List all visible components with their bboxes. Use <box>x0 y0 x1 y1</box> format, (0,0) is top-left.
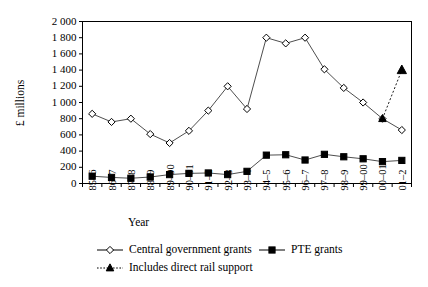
y-tick-label: 800 <box>60 112 77 124</box>
data-point-square <box>263 152 269 158</box>
data-point-diamond <box>166 139 173 146</box>
data-point-diamond <box>106 246 113 253</box>
data-point-diamond <box>263 34 270 41</box>
series-central-government-grants-line <box>92 38 402 143</box>
x-tick-label: 97–8 <box>319 170 330 191</box>
legend-marker-2 <box>106 264 114 271</box>
legend-marker-0 <box>106 246 113 253</box>
legend-label-1: PTE grants <box>291 243 343 256</box>
data-point-square <box>108 174 114 180</box>
y-tick-label: 1 000 <box>52 96 77 108</box>
series-direct-rail-support-markers <box>379 65 407 122</box>
data-point-diamond <box>282 40 289 47</box>
data-point-diamond <box>301 34 308 41</box>
data-point-diamond <box>108 118 115 125</box>
x-tick-label: 94–5 <box>261 170 272 191</box>
data-point-diamond <box>89 110 96 117</box>
data-point-square <box>269 247 275 253</box>
x-tick-label: 01–2 <box>397 170 408 191</box>
y-tick-label: 0 <box>71 177 77 189</box>
legend-marker-1 <box>269 247 275 253</box>
y-axis: 02004006008001 0001 2001 4001 6001 8002 … <box>52 15 83 189</box>
y-tick-label: 2 000 <box>52 15 77 27</box>
x-axis-title: Year <box>128 216 149 228</box>
data-point-triangle <box>106 264 114 271</box>
chart-figure: 02004006008001 0001 2001 4001 6001 8002 … <box>0 0 428 287</box>
x-tick-label: 98–9 <box>339 170 350 191</box>
data-point-square <box>283 152 289 158</box>
x-tick-label: 00–01 <box>377 164 388 190</box>
data-point-diamond <box>398 126 405 133</box>
data-point-square <box>186 170 192 176</box>
chart-legend: Central government grantsPTE grantsInclu… <box>97 243 343 274</box>
data-point-square <box>225 171 231 177</box>
y-tick-label: 1 800 <box>52 31 77 43</box>
data-point-square <box>321 151 327 157</box>
y-tick-label: 600 <box>60 128 77 140</box>
x-tick-label: 95–6 <box>281 170 292 191</box>
y-tick-label: 400 <box>60 144 77 156</box>
data-point-square <box>166 171 172 177</box>
y-axis-title: £ millions <box>14 79 26 126</box>
legend-label-2: Includes direct rail support <box>129 261 253 274</box>
data-point-square <box>399 157 405 163</box>
chart-svg: 02004006008001 0001 2001 4001 6001 8002 … <box>0 0 428 287</box>
x-tick-label: 96–7 <box>300 170 311 191</box>
data-point-square <box>147 174 153 180</box>
y-tick-label: 1 600 <box>52 47 77 59</box>
data-point-square <box>302 157 308 163</box>
data-point-square <box>128 175 134 181</box>
data-point-square <box>244 168 250 174</box>
series-central-government-grants-markers <box>89 34 406 147</box>
data-point-triangle <box>397 65 406 74</box>
data-point-square <box>89 173 95 179</box>
x-tick-label: 90–91 <box>184 164 195 190</box>
series-direct-rail-support-line <box>382 70 401 119</box>
data-point-square <box>341 154 347 160</box>
x-tick-label: 99–00 <box>358 164 369 190</box>
y-tick-label: 200 <box>60 160 77 172</box>
data-point-square <box>379 159 385 165</box>
legend-label-0: Central government grants <box>129 243 252 256</box>
data-point-square <box>360 156 366 162</box>
y-tick-label: 1 200 <box>52 79 77 91</box>
y-tick-label: 1 400 <box>52 63 77 75</box>
data-point-square <box>205 170 211 176</box>
